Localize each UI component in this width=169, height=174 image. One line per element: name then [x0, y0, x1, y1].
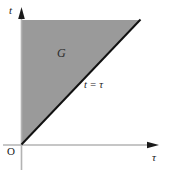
tau-axis-label: τ [152, 152, 156, 163]
t-axis-arrowhead-icon [18, 7, 25, 19]
region-label-g: G [57, 47, 66, 59]
tau-axis-arrowhead-icon [147, 142, 159, 148]
t-axis-label: t [9, 5, 12, 16]
origin-label: O [7, 146, 15, 157]
boundary-line-label: t = τ [84, 80, 103, 91]
figure-canvas: t τ G t = τ O [0, 0, 169, 174]
